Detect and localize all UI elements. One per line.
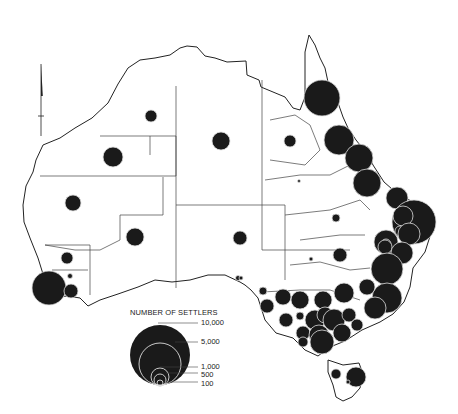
settler-symbol (345, 144, 373, 172)
settler-symbol (61, 252, 73, 264)
settler-symbol (359, 279, 375, 295)
settler-symbol (371, 253, 403, 285)
settler-symbol (298, 180, 301, 183)
settler-symbol (334, 283, 354, 303)
legend-label-10000: 10,000 (201, 318, 224, 327)
settler-symbol (259, 287, 267, 295)
legend-label-5000: 5,000 (201, 337, 220, 346)
settler-symbol (333, 248, 347, 262)
settler-symbol (332, 214, 340, 222)
settler-symbol (239, 276, 243, 280)
settler-symbol (103, 147, 123, 167)
settler-symbol (298, 337, 308, 347)
settler-symbol (145, 110, 157, 122)
settler-symbol (291, 291, 309, 309)
settler-symbol (32, 271, 66, 305)
settler-symbol (212, 132, 230, 150)
settler-symbol (65, 195, 81, 211)
settler-symbol (304, 80, 340, 116)
settler-symbol (351, 319, 363, 331)
settler-symbol (346, 380, 350, 384)
settler-symbol (284, 135, 296, 147)
legend-label-100: 100 (201, 379, 214, 388)
settler-symbol (331, 369, 341, 379)
settler-symbol (279, 313, 293, 327)
settler-symbols (32, 80, 436, 387)
settler-symbol (64, 284, 78, 298)
settler-symbol (275, 289, 291, 305)
settler-symbol (364, 297, 386, 319)
settler-symbol (314, 291, 332, 309)
settler-symbol (233, 231, 247, 245)
settler-symbol (260, 299, 274, 313)
settler-symbol (378, 240, 392, 254)
settler-symbol (310, 330, 334, 354)
settler-symbol (353, 169, 381, 197)
settler-symbol (309, 257, 313, 261)
legend-label-500: 500 (201, 370, 214, 379)
legend-symbols (130, 323, 198, 386)
north-arrow-icon (38, 64, 44, 136)
australia-map (0, 0, 458, 414)
settler-symbol (68, 274, 73, 279)
settler-symbol (126, 228, 144, 246)
settler-symbol (296, 312, 304, 320)
settler-symbol (333, 324, 351, 342)
legend-title: NUMBER OF SETTLERS (130, 308, 218, 317)
